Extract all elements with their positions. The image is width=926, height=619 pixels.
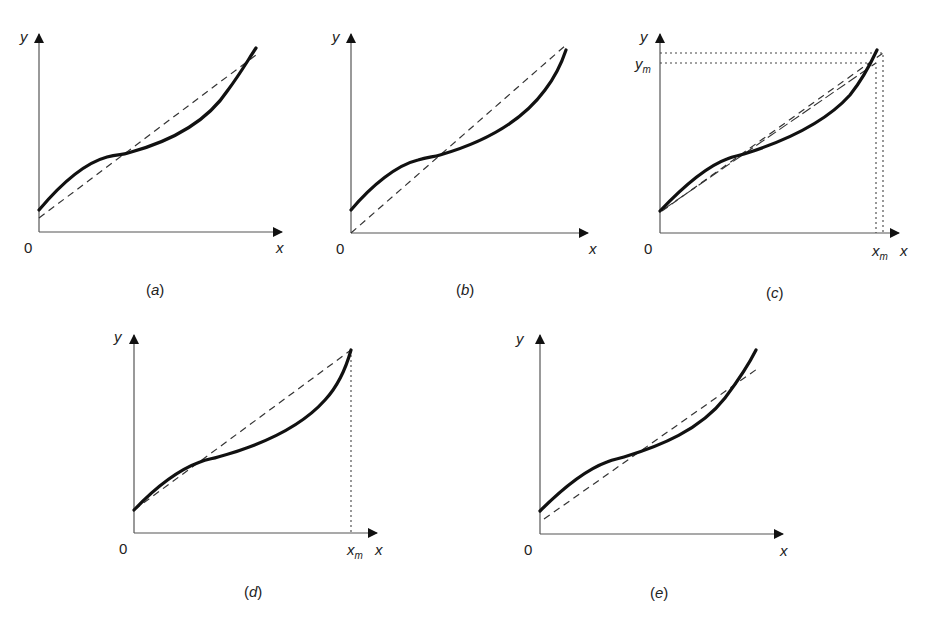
solid-curve [540, 350, 756, 511]
panel-caption-c: (c) [766, 284, 784, 301]
figure-canvas: y 0 x (a) y 0 x (b) y ym 0 xm x (c) [0, 0, 926, 619]
origin-label: 0 [336, 240, 344, 257]
panel-caption-b: (b) [456, 281, 474, 298]
ym-label: ym [634, 55, 651, 75]
panel-d: y 0 xm x (d) [113, 328, 383, 600]
solid-curve [660, 50, 877, 211]
origin-label: 0 [24, 239, 32, 256]
y-axis-label: y [515, 330, 525, 347]
y-axis-label: y [639, 28, 649, 45]
origin-label: 0 [644, 240, 652, 257]
y-axis-label: y [19, 28, 29, 45]
panel-a: y 0 x (a) [19, 28, 284, 298]
dashed-chord [39, 55, 256, 218]
x-axis-label: x [588, 240, 597, 257]
dashed-chord [544, 369, 757, 519]
origin-label: 0 [119, 540, 127, 557]
solid-curve [39, 48, 256, 210]
panel-caption-d: (d) [244, 583, 262, 600]
xm-label: xm [871, 242, 888, 262]
x-axis-label: x [374, 541, 383, 558]
y-axis-label: y [113, 328, 123, 345]
x-axis-label: x [899, 242, 908, 259]
panel-caption-e: (e) [650, 584, 668, 601]
panel-caption-a: (a) [146, 281, 164, 298]
x-axis-label: x [275, 239, 284, 256]
panel-c: y ym 0 xm x (c) [634, 28, 908, 301]
y-axis-label: y [331, 28, 341, 45]
panel-b: y 0 x (b) [331, 28, 597, 298]
origin-label: 0 [524, 541, 532, 558]
solid-curve [351, 50, 566, 210]
xm-label: xm [346, 541, 363, 561]
dashed-chord [134, 350, 351, 510]
panel-e: y 0 x (e) [515, 330, 788, 601]
x-axis-label: x [779, 542, 788, 559]
dashed-chord [351, 45, 566, 233]
dotted-guide-ym-xm [660, 63, 876, 233]
